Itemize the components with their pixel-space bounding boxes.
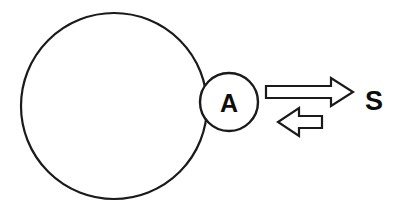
reverse-arrow-icon: [278, 108, 322, 136]
label-a: A: [220, 89, 238, 117]
forward-arrow-icon: [266, 78, 353, 106]
diagram-canvas: A S: [0, 0, 402, 208]
diagram-svg: A S: [0, 0, 402, 208]
large-circle: [21, 13, 207, 199]
label-s: S: [365, 86, 383, 116]
